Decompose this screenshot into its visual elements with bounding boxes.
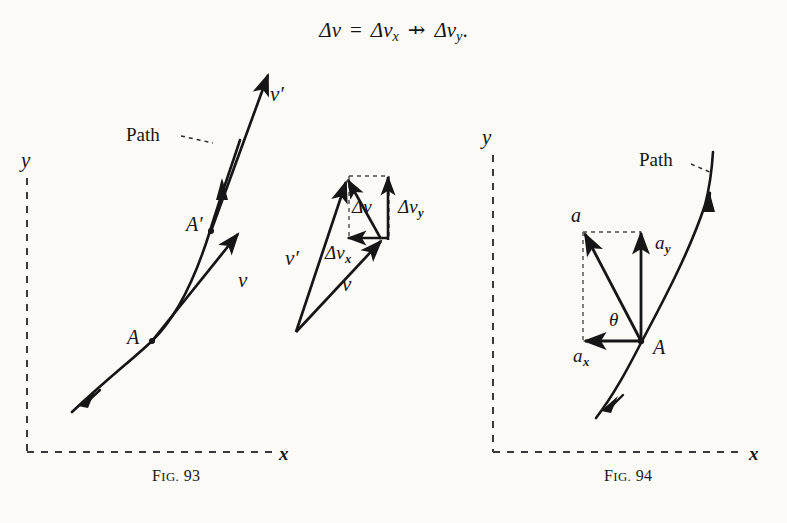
fig93-label-A-prime: A′ [186, 214, 203, 234]
fig94-label-a-x-sub: x [583, 355, 590, 369]
fig93-path-leader [181, 136, 213, 143]
fig94-axes [493, 155, 742, 452]
fig93-label-v: v [238, 270, 247, 291]
fig93-vector-v-prime [211, 75, 268, 231]
fig93-vector-v [152, 234, 238, 341]
fig93-caption-smallcaps: IG. [161, 470, 179, 484]
label-delta-v-y: Δvy [398, 197, 424, 219]
fig94-axis-y-label: y [482, 127, 491, 148]
fig94-label-a-y: ay [655, 233, 671, 255]
fig93-caption: FIG. 93 [152, 467, 200, 485]
fig93-caption-prefix: F [152, 467, 161, 484]
fig94-path-leader [691, 164, 712, 173]
fig94-label-a-y-sub: y [665, 242, 671, 256]
fig94-caption-number: 94 [636, 467, 653, 484]
fig93-caption-number: 93 [184, 467, 201, 484]
fig94-label-a-x-main: a [573, 345, 583, 366]
label-delta-v-x-sub: x [345, 252, 352, 266]
fig94-caption-prefix: F [604, 467, 613, 484]
fig94-path-label: Path [639, 150, 673, 169]
fig94-caption-smallcaps: IG. [613, 470, 631, 484]
fig93-label-A: A [127, 327, 139, 347]
fig93-trajectory [72, 140, 240, 412]
fig94-axis-x-label: x [749, 444, 759, 463]
fig94-angle-theta-label: θ [609, 310, 618, 329]
fig93-axis-y-label: y [21, 150, 30, 171]
label-v-prime-triangle: v′ [285, 248, 299, 269]
fig94-label-a-x: ax [573, 346, 589, 368]
fig93-axes [27, 178, 272, 452]
fig94-caption: FIG. 94 [604, 467, 652, 485]
label-delta-v-y-sub: y [418, 206, 424, 220]
label-delta-v-y-main: Δv [398, 196, 418, 217]
figures-linework [0, 0, 787, 523]
fig94-label-a-y-main: a [655, 232, 665, 253]
fig94-trajectory [596, 152, 715, 418]
figure-page: Δv=Δvx⇸Δvy. [0, 0, 787, 523]
label-delta-v-x-main: Δv [325, 242, 345, 263]
fig94-label-A: A [653, 337, 665, 357]
fig93-path-label: Path [126, 125, 160, 144]
fig93-label-v-prime: v′ [270, 84, 284, 105]
fig94-label-a: a [571, 205, 581, 225]
label-delta-v: Δv [352, 197, 372, 216]
label-v-triangle: v [342, 274, 351, 295]
label-delta-v-x: Δvx [325, 243, 351, 265]
fig93-axis-x-label: x [279, 444, 289, 463]
